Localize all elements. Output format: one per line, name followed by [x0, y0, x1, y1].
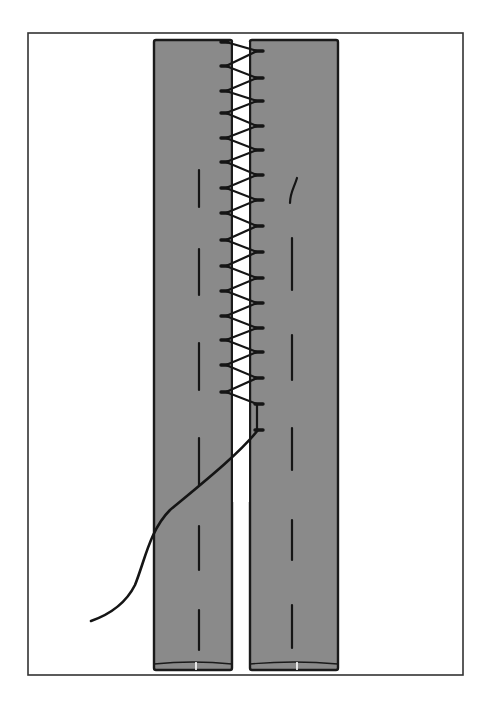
left-strip — [154, 40, 232, 670]
fabric-body — [250, 40, 338, 670]
fabric-strips — [154, 40, 338, 670]
ladder-stitch-illustration — [0, 0, 487, 708]
right-strip — [250, 40, 338, 670]
fabric-body — [154, 40, 232, 670]
